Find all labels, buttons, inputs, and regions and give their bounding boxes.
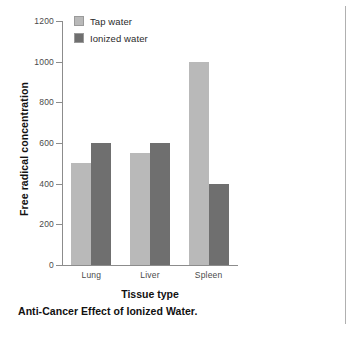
legend-item-tap-water: Tap water [74,14,148,28]
bar-liver-ionized-water [150,143,170,265]
x-tick-label-spleen: Spleen [174,270,244,280]
legend-swatch-icon [74,33,84,43]
chart-legend: Tap waterIonized water [74,14,148,48]
plot-area: 020040060080010001200 Free radical conce… [0,0,330,280]
figure-caption: Anti-Cancer Effect of Ionized Water. [18,305,197,317]
figure-page: 020040060080010001200 Free radical conce… [0,0,357,348]
bars-layer [0,0,330,280]
bar-spleen-tap-water [189,62,209,265]
legend-label: Ionized water [90,33,148,44]
bar-lung-ionized-water [91,143,111,265]
bar-lung-tap-water [71,163,91,265]
legend-item-ionized-water: Ionized water [74,31,148,45]
legend-swatch-icon [74,16,84,26]
bar-chart-figure: 020040060080010001200 Free radical conce… [0,0,330,348]
bar-spleen-ionized-water [209,184,229,265]
bar-liver-tap-water [130,153,150,265]
x-axis-title: Tissue type [62,288,238,300]
legend-label: Tap water [90,16,132,27]
page-vertical-rule [345,6,346,324]
